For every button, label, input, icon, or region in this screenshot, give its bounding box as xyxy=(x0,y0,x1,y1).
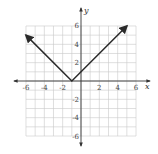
x-tick-label: 2 xyxy=(97,84,101,92)
x-axis-label: x xyxy=(145,82,150,91)
x-tick-label: 6 xyxy=(134,84,139,92)
y-tick-label: 4 xyxy=(75,41,80,49)
graph: -6-4-2246642-2-4-6 x y xyxy=(0,0,158,154)
y-tick-label: -6 xyxy=(72,133,79,141)
x-tick-label: -4 xyxy=(41,84,48,92)
y-axis-label: y xyxy=(83,6,89,15)
y-tick-label: -4 xyxy=(72,114,79,122)
y-tick-label: -2 xyxy=(72,96,79,104)
y-tick-label: 2 xyxy=(75,59,79,67)
x-tick-label: -6 xyxy=(23,84,30,92)
x-tick-label: 4 xyxy=(115,84,120,92)
y-tick-label: 6 xyxy=(75,22,80,30)
x-tick-label: -2 xyxy=(59,84,66,92)
